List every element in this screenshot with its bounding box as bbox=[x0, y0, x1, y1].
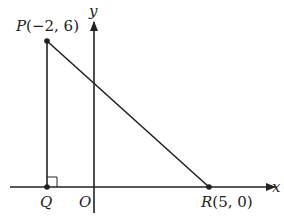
point-r bbox=[206, 184, 212, 190]
origin-label: O bbox=[79, 193, 91, 211]
x-axis-label: x bbox=[272, 178, 281, 196]
coordinate-diagram: P(−2, 6) y x Q O R(5, 0) bbox=[0, 0, 284, 216]
point-q bbox=[44, 184, 50, 190]
point-r-label: R(5, 0) bbox=[200, 193, 253, 211]
y-axis-label: y bbox=[88, 2, 98, 20]
point-p bbox=[44, 38, 50, 44]
point-p-label: P(−2, 6) bbox=[15, 17, 79, 35]
segment-pr bbox=[47, 41, 209, 187]
point-q-label: Q bbox=[40, 193, 52, 211]
